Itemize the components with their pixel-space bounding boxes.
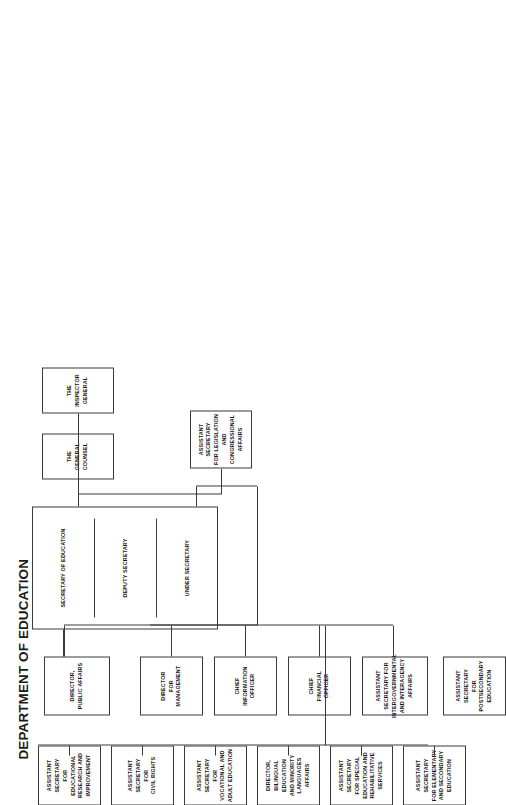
node-chief-financial-officer-label: CHIEF FINANCIAL OFFICER xyxy=(308,670,331,700)
connector-secretary-stub xyxy=(78,494,79,506)
node-postsecondary-education[interactable]: ASSISTANT SECRETARY FOR POSTSECONDARY ED… xyxy=(443,656,506,715)
node-chief-financial-officer[interactable]: CHIEF FINANCIAL OFFICER xyxy=(288,656,351,715)
node-deputy-secretary-label: DEPUTY SECRETARY xyxy=(122,538,128,597)
node-intergovernmental-interagency-affairs-label: ASSISTANT SECRETARY FOR INTERGOVERNMENTA… xyxy=(375,653,414,717)
node-director-public-affairs-label: DIRECTOR, PUBLIC AFFAIRS xyxy=(69,662,85,709)
node-educational-research-improvement-label: ASSISTANT SECRETARY FOR EDUCATIONAL RESE… xyxy=(46,752,93,797)
connector-upper-spine xyxy=(64,624,150,625)
connector-elementary-secondary-education xyxy=(434,745,435,755)
connector-director-for-management xyxy=(171,625,172,656)
connector-under-secretary-stub xyxy=(196,486,197,506)
connector-under-secretary-drop xyxy=(196,485,257,486)
connector-legislation xyxy=(221,468,222,494)
connector-intergovernmental-interagency-affairs xyxy=(393,625,394,656)
connector-special-education xyxy=(361,745,362,755)
node-secretary[interactable]: SECRETARY OF EDUCATION xyxy=(32,506,94,629)
node-under-secretary-label: UNDER SECRETARY xyxy=(184,539,190,595)
connector-civil-rights xyxy=(142,745,143,755)
node-special-education-rehabilitative-services-label: ASSISTANT SECRETARY FOR SPECIAL EDUCATIO… xyxy=(338,752,385,799)
node-intergovernmental-interagency-affairs[interactable]: ASSISTANT SECRETARY FOR INTERGOVERNMENTA… xyxy=(362,656,428,715)
page-title: DEPARTMENT OF EDUCATION xyxy=(16,558,31,759)
node-legislation-congressional-affairs-label: ASSISTANT SECRETARY FOR LEGISLATION AND … xyxy=(198,412,245,466)
node-director-for-management[interactable]: DIRECTOR FOR MANAGEMENT xyxy=(140,656,203,715)
connector-vocational-adult-education xyxy=(215,745,216,755)
node-director-for-management-label: DIRECTOR FOR MANAGEMENT xyxy=(160,665,183,706)
node-under-secretary[interactable]: UNDER SECRETARY xyxy=(156,506,218,629)
node-deputy-secretary[interactable]: DEPUTY SECRETARY xyxy=(94,506,156,629)
node-bilingual-education-minority-languages-label: DIRECTOR, BILINGUAL EDUCATION AND MINORI… xyxy=(265,754,312,795)
connector-bilingual-education xyxy=(288,745,289,755)
node-vocational-adult-education-label: ASSISTANT SECRETARY FOR VOCATIONAL AND A… xyxy=(196,748,235,801)
node-civil-rights-label: ASSISTANT SECRETARY FOR CIVIL RIGHTS xyxy=(127,756,158,793)
node-elementary-secondary-education-label: ASSISTANT SECRETARY FOR ELEMENTARY AND S… xyxy=(415,749,454,801)
node-secretary-label: SECRETARY OF EDUCATION xyxy=(60,528,66,607)
connector-upper-spine-to-management xyxy=(64,625,65,656)
connector-chief-information-officer xyxy=(245,625,246,656)
node-postsecondary-education-label: ASSISTANT SECRETARY FOR POSTSECONDARY ED… xyxy=(455,660,494,711)
connector-left-column-spine xyxy=(150,624,393,625)
connector-spine-to-outer-trunk xyxy=(325,625,326,745)
node-inspector-general[interactable]: THE INSPECTOR GENERAL xyxy=(42,367,114,413)
connector-chief-financial-officer xyxy=(319,625,320,656)
node-inspector-general-label: THE INSPECTOR GENERAL xyxy=(66,374,89,407)
node-chief-information-officer-label: CHIEF INFORMATION OFFICER xyxy=(234,666,257,705)
node-director-public-affairs[interactable]: DIRECTOR, PUBLIC AFFAIRS xyxy=(44,656,110,715)
node-chief-information-officer[interactable]: CHIEF INFORMATION OFFICER xyxy=(214,656,277,715)
connector-inspector-general xyxy=(78,413,79,494)
connector-secretary-trunk xyxy=(78,493,221,494)
node-legislation-congressional-affairs[interactable]: ASSISTANT SECRETARY FOR LEGISLATION AND … xyxy=(190,410,252,468)
connector-under-secretary-return xyxy=(257,486,258,625)
connector-educational-research-improvement xyxy=(69,745,70,755)
